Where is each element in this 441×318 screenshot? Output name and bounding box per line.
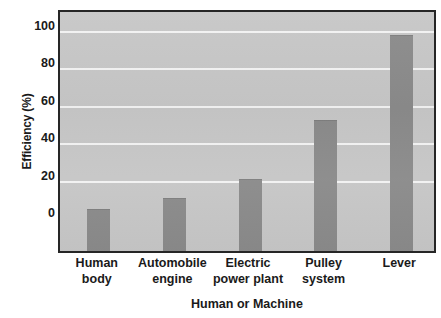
gridline <box>60 68 434 70</box>
x-axis-tick-label: Automobileengine <box>138 256 207 287</box>
x-axis-tick-label-line: engine <box>138 272 207 288</box>
chart-figure: Efficiency (%) 020406080100 HumanbodyAut… <box>0 0 441 318</box>
plot-area <box>58 10 436 253</box>
x-axis-tick-label: Lever <box>383 256 416 272</box>
x-axis-tick-label-line: system <box>302 272 345 288</box>
y-axis-tick-label: 60 <box>7 95 55 108</box>
x-axis-tick-label: Humanbody <box>76 256 118 287</box>
x-axis-tick-label-line: Automobile <box>138 256 207 272</box>
x-axis-tick-label-line: Electric <box>213 256 283 272</box>
x-axis-tick-label-line: Pulley <box>302 256 345 272</box>
bar <box>163 198 186 253</box>
x-axis-tick-label-line: Human <box>76 256 118 272</box>
y-axis-tick-labels: 020406080100 <box>0 0 55 318</box>
y-axis-tick-label: 80 <box>7 57 55 70</box>
x-axis-tick-label: Electricpower plant <box>213 256 283 287</box>
gridline <box>60 31 434 33</box>
gridline <box>60 143 434 145</box>
x-axis-tick-label-line: Lever <box>383 256 416 272</box>
bar <box>390 35 413 253</box>
x-axis-tick-labels: HumanbodyAutomobileengineElectricpower p… <box>58 256 436 296</box>
y-axis-tick-label: 0 <box>7 207 55 220</box>
y-axis-tick-label: 40 <box>7 132 55 145</box>
x-axis-tick-label-line: body <box>76 272 118 288</box>
y-axis-tick-label: 100 <box>7 20 55 33</box>
y-axis-tick-label: 20 <box>7 169 55 182</box>
bar <box>239 179 262 253</box>
bar <box>314 120 337 253</box>
x-axis-tick-label: Pulleysystem <box>302 256 345 287</box>
gridline <box>60 106 434 108</box>
bar <box>87 209 110 253</box>
x-axis-title: Human or Machine <box>58 297 436 311</box>
x-axis-tick-label-line: power plant <box>213 272 283 288</box>
